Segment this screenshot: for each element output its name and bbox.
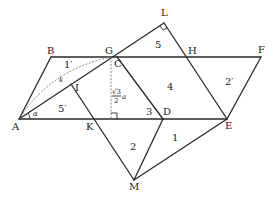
label-alpha: α xyxy=(33,110,38,118)
region-2-prime: 2′ xyxy=(225,76,234,87)
line-CD xyxy=(117,57,163,119)
label-K: K xyxy=(86,121,94,132)
right-angle-foot xyxy=(111,113,117,119)
line-LE xyxy=(164,23,227,119)
region-1: 1 xyxy=(172,132,178,143)
label-I: I xyxy=(75,82,79,93)
label-G: G xyxy=(105,45,113,56)
angle-alpha-arc xyxy=(28,113,30,119)
region-4: 4 xyxy=(167,81,173,92)
label-L: L xyxy=(161,7,168,18)
region-5: 5 xyxy=(155,39,161,50)
line-AL xyxy=(19,23,164,119)
region-1-prime: 1′ xyxy=(64,59,73,70)
label-C: C xyxy=(114,58,122,69)
height-denominator: 2 xyxy=(114,97,118,105)
label-B: B xyxy=(47,45,54,56)
label-F: F xyxy=(258,44,265,55)
label-A: A xyxy=(11,121,20,132)
label-k: k xyxy=(59,76,63,84)
geometry-diagram: A B G C H F L I K D E M 1′ 5′ 5 4 3 2′ 2… xyxy=(0,0,279,203)
line-EF xyxy=(227,57,261,119)
label-H: H xyxy=(188,45,197,56)
region-2: 2 xyxy=(130,141,136,152)
height-variable: a xyxy=(122,93,126,101)
label-M: M xyxy=(129,181,139,192)
region-5-prime: 5′ xyxy=(58,103,67,114)
height-numerator: √3 xyxy=(112,88,121,96)
label-D: D xyxy=(163,106,171,117)
region-3: 3 xyxy=(146,106,152,117)
label-E: E xyxy=(225,120,232,131)
